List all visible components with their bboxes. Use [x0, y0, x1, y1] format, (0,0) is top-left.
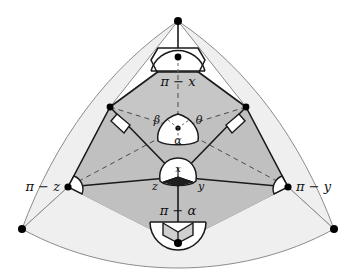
vertex-corner-right	[284, 183, 291, 190]
vertex-corner-left	[64, 183, 71, 190]
vertex-outer-left	[18, 225, 26, 233]
vertex-base	[174, 239, 182, 247]
label-center-beta: β	[153, 114, 160, 127]
label-lower-z: z	[151, 180, 158, 193]
diagram-canvas: π − x π − α π − z π − y β θ α x z y	[0, 0, 356, 279]
vertex-upper-inner	[175, 54, 182, 61]
label-lower-x: x	[175, 163, 181, 174]
label-center-theta: θ	[196, 114, 203, 127]
label-top: π − x	[159, 74, 196, 89]
vertex-shoulder-left	[107, 104, 114, 111]
spherical-geometry-figure: π − x π − α π − z π − y β θ α x z y	[0, 0, 356, 279]
label-right: π − y	[295, 179, 332, 194]
label-bottom: π − α	[159, 203, 197, 218]
label-lower-y: y	[197, 180, 205, 193]
vertex-outer-right	[330, 225, 338, 233]
label-left: π − z	[24, 179, 60, 194]
vertex-apex	[174, 17, 182, 25]
vertex-shoulder-right	[243, 104, 250, 111]
label-center-alpha: α	[174, 134, 182, 147]
